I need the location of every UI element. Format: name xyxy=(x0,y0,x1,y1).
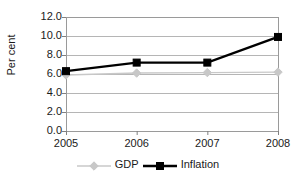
legend-item-inflation[interactable]: Inflation xyxy=(143,158,224,170)
legend-marker xyxy=(156,163,163,170)
legend-swatch-inflation xyxy=(143,158,177,170)
x-axis-tick-labels: 2005200620072008 xyxy=(0,0,300,177)
x-axis-tick-label: 2005 xyxy=(54,138,78,149)
x-axis-tick-label: 2008 xyxy=(266,138,290,149)
legend-swatch-icon xyxy=(143,160,177,172)
legend-swatch-icon xyxy=(77,160,111,172)
legend-item-gdp[interactable]: GDP xyxy=(77,158,143,170)
line-chart: Per cent 0.02.04.06.08.010.012.0 2005200… xyxy=(0,0,300,177)
legend-label-gdp: GDP xyxy=(111,159,143,170)
legend-marker xyxy=(90,162,98,170)
legend-swatch-gdp xyxy=(77,158,111,170)
x-axis-tick-label: 2006 xyxy=(124,138,148,149)
x-axis-tick-label: 2007 xyxy=(195,138,219,149)
chart-legend: GDPInflation xyxy=(0,156,300,172)
legend-label-inflation: Inflation xyxy=(177,159,224,170)
